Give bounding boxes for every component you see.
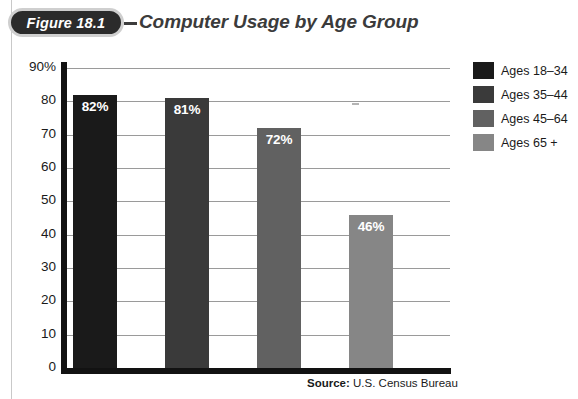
legend-label: Ages 35–44 [501,88,568,102]
y-axis-tick-labels: 90%80706050403020100 [0,0,56,399]
x-axis-line [61,368,451,374]
y-axis-tick-label: 60 [41,159,56,174]
bar: 46% [349,215,393,368]
bar-value-label: 82% [73,99,117,114]
figure-container: Figure 18.1 Computer Usage by Age Group … [0,0,578,399]
bar-value-label: 46% [349,219,393,234]
legend-item: Ages 18–34 [473,60,577,81]
y-axis-tick-label: 10 [41,326,56,341]
legend-swatch [473,110,494,127]
legend-label: Ages 45–64 [501,112,568,126]
source-attribution: Source: U.S. Census Bureau [307,377,458,389]
badge-connector-dash [124,22,137,25]
y-axis-tick-label: 70 [41,126,56,141]
source-value: U.S. Census Bureau [350,377,458,389]
chart-legend: Ages 18–34Ages 35–44Ages 45–64Ages 65 + [473,60,577,156]
legend-item: Ages 65 + [473,132,577,153]
y-axis-tick-label: 40 [41,226,56,241]
legend-swatch [473,134,494,151]
y-axis-tick-label: 90% [29,59,56,74]
y-axis-tick-label: 50 [41,192,56,207]
legend-swatch [473,62,494,79]
bar-value-label: 81% [165,102,209,117]
chart-bars: 82%81%72%46% [67,68,451,368]
y-axis-tick-label: 20 [41,292,56,307]
page-title: Computer Usage by Age Group [139,11,419,33]
y-axis-tick-label: 0 [48,359,56,374]
y-axis-tick-label: 30 [41,259,56,274]
bar: 81% [165,98,209,368]
scan-artifact-speck [352,103,359,105]
legend-swatch [473,86,494,103]
bar: 82% [73,95,117,368]
bar: 72% [257,128,301,368]
source-label: Source: [307,377,350,389]
legend-label: Ages 65 + [501,136,558,150]
bar-value-label: 72% [257,132,301,147]
legend-item: Ages 45–64 [473,108,577,129]
y-axis-tick-label: 80 [41,92,56,107]
legend-item: Ages 35–44 [473,84,577,105]
legend-label: Ages 18–34 [501,64,568,78]
